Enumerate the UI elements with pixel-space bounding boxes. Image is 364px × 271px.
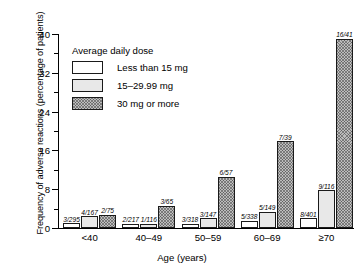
bar: 5/149 bbox=[259, 212, 276, 228]
x-axis-line bbox=[58, 228, 354, 229]
y-tick-label: 40 bbox=[39, 29, 50, 40]
legend-items: Less than 15 mg15–29.99 mg30 mg or more bbox=[72, 61, 247, 110]
bar-value-label: 5/338 bbox=[241, 214, 258, 221]
bar-chart: Frequency of adverse reactions (percenta… bbox=[0, 0, 364, 271]
bar-value-label: 4/167 bbox=[81, 210, 98, 217]
bar-value-label: 9/116 bbox=[318, 184, 334, 191]
bar-value-label: 6/57 bbox=[220, 170, 233, 177]
legend-swatch bbox=[72, 79, 103, 92]
bar: 5/338 bbox=[241, 221, 258, 228]
bar: 2/75 bbox=[99, 215, 116, 228]
legend-title: Average daily dose bbox=[72, 45, 247, 56]
y-tick-minor bbox=[54, 209, 58, 210]
bar: 8/401 bbox=[300, 218, 317, 228]
x-tick-label: ≥70 bbox=[318, 232, 334, 243]
x-tick-label: <40 bbox=[81, 232, 97, 243]
y-tick-major bbox=[52, 73, 58, 74]
legend: Average daily dose Less than 15 mg15–29.… bbox=[72, 45, 247, 115]
y-axis-title: Frequency of adverse reactions (percenta… bbox=[35, 8, 45, 238]
y-tick-major bbox=[52, 228, 58, 229]
bar-value-label: 5/149 bbox=[259, 205, 276, 212]
x-tick-label: 40–49 bbox=[135, 232, 162, 243]
bar: 3/65 bbox=[158, 206, 175, 228]
y-tick-label: 16 bbox=[39, 145, 50, 156]
legend-label: 30 mg or more bbox=[117, 98, 179, 109]
legend-item: Less than 15 mg bbox=[72, 61, 247, 74]
x-axis-title: Age (years) bbox=[0, 252, 364, 263]
bar: 3/147 bbox=[200, 218, 217, 228]
bar: 4/167 bbox=[81, 216, 98, 228]
bar-value-label: 2/217 bbox=[123, 217, 140, 224]
bar: 6/57 bbox=[218, 177, 235, 228]
bar-value-label: 3/318 bbox=[182, 217, 199, 224]
legend-item: 30 mg or more bbox=[72, 97, 247, 110]
bar-value-label: 3/147 bbox=[200, 212, 217, 219]
x-tick-label: 50–59 bbox=[195, 232, 222, 243]
bar-value-label: 3/65 bbox=[160, 199, 173, 206]
y-tick-label: 32 bbox=[39, 67, 50, 78]
y-tick-minor bbox=[54, 170, 58, 171]
bar: 3/295 bbox=[63, 223, 80, 228]
bar-value-label: 7/39 bbox=[279, 135, 292, 142]
bar: 1/116 bbox=[140, 224, 157, 228]
y-tick-minor bbox=[54, 53, 58, 54]
bar-value-label: 3/295 bbox=[63, 217, 80, 224]
y-tick-minor bbox=[54, 92, 58, 93]
y-tick-major bbox=[52, 34, 58, 35]
y-tick-label: 24 bbox=[39, 106, 50, 117]
legend-item: 15–29.99 mg bbox=[72, 79, 247, 92]
legend-label: 15–29.99 mg bbox=[117, 80, 173, 91]
y-tick-label: 0 bbox=[45, 223, 50, 234]
bar-value-label: 1/116 bbox=[141, 217, 157, 224]
bar: 9/116 bbox=[318, 190, 335, 228]
y-tick-major bbox=[52, 150, 58, 151]
y-tick-minor bbox=[54, 131, 58, 132]
legend-swatch bbox=[72, 61, 103, 74]
bar: 16/41 bbox=[336, 39, 353, 228]
y-tick-major bbox=[52, 189, 58, 190]
legend-label: Less than 15 mg bbox=[117, 62, 188, 73]
bar: 2/217 bbox=[122, 224, 139, 228]
y-axis-line bbox=[58, 34, 59, 228]
bar-value-label: 16/41 bbox=[336, 32, 353, 39]
legend-swatch bbox=[72, 97, 103, 110]
bar: 7/39 bbox=[277, 141, 294, 228]
y-tick-major bbox=[52, 112, 58, 113]
bar-value-label: 2/75 bbox=[101, 208, 114, 215]
bar: 3/318 bbox=[182, 224, 199, 228]
y-tick-label: 8 bbox=[45, 184, 50, 195]
x-tick-label: 60–69 bbox=[254, 232, 281, 243]
bar-value-label: 8/401 bbox=[300, 212, 317, 219]
